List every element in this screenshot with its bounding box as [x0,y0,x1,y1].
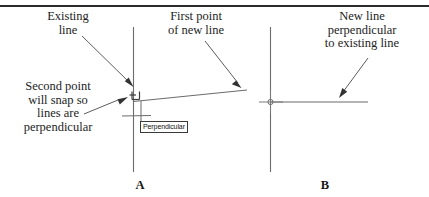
panel-a-alignment-tick [122,116,151,117]
callout-existing-line: Existing line [26,10,110,37]
perpendicular-snap-marker [130,92,140,100]
panel-label-a: A [128,178,152,193]
perpendicular-snap-figure: Existing line First point of new line Se… [0,0,429,197]
leader-new-line [339,58,368,98]
crosshair-node-marker [259,90,283,114]
panel-a-new-line-rubberband [134,90,248,102]
callout-new-line: New line perpendicular to existing line [300,10,424,51]
panel-label-b: B [313,178,337,193]
leader-first-point [205,41,242,88]
perpendicular-tooltip: Perpendicular [140,121,188,133]
callout-first-point: First point of new line [148,10,244,37]
callout-second-point: Second point will snap so lines are perp… [2,80,114,134]
